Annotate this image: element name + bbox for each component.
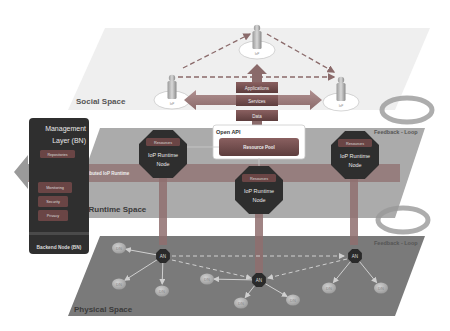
physical-space-label: Physical Space (74, 305, 133, 314)
dn-label: DN (204, 277, 210, 282)
access-node-an[interactable]: AN (156, 249, 170, 263)
feedback-loop-label-2: Feedback - Loop (374, 240, 418, 246)
iop-runtime-node[interactable]: ResourcesIoP RuntimeNode (235, 166, 283, 214)
an-dn-link (162, 263, 163, 284)
access-node-an[interactable]: AN (348, 249, 362, 263)
social-space-label: Social Space (76, 97, 126, 106)
iop-user-label: IoP (255, 52, 260, 56)
device-node-dn[interactable]: DN (155, 286, 169, 297)
resources-label: Resources (154, 141, 172, 145)
device-node-dn[interactable]: DN (286, 295, 300, 306)
node-title-line1: IoP Runtime (244, 188, 274, 194)
feedback-loop-label-1: Feedback - Loop (374, 129, 418, 135)
dn-label: DN (116, 246, 122, 251)
app-stack: Applications Services Data (236, 82, 278, 121)
person-body-icon (337, 83, 346, 101)
repositories-label: Repositories (48, 153, 68, 157)
access-node-an[interactable]: AN (252, 273, 266, 287)
iop-runtime-node[interactable]: ResourcesIoP RuntimeNode (139, 130, 187, 178)
person-head-icon (338, 77, 344, 83)
dn-label: DN (159, 289, 165, 294)
resource-pool-label: Resource Pool (243, 145, 275, 150)
management-title-1: Management (45, 125, 86, 133)
data-label: Data (252, 114, 262, 119)
person-head-icon (254, 25, 260, 31)
dn-label: DN (378, 286, 384, 291)
an-label: AN (352, 254, 358, 259)
dn-label: DN (290, 298, 296, 303)
resources-label: Resources (250, 177, 268, 181)
node-title-line2: Node (348, 162, 361, 168)
applications-label: Applications (245, 86, 270, 91)
device-node-dn[interactable]: DN (322, 283, 336, 294)
resources-label: Resources (346, 142, 364, 146)
iop-architecture-diagram: Social Space Distributed IoP Runtime IoP… (0, 0, 450, 331)
device-node-dn[interactable]: DN (112, 279, 126, 290)
management-layer-panel: Management Layer (BN) Repositories Monit… (29, 118, 89, 254)
node-title-line2: Node (156, 161, 169, 167)
person-body-icon (253, 31, 262, 49)
device-node-dn[interactable]: DN (234, 298, 248, 309)
device-node-dn[interactable]: DN (200, 274, 214, 285)
person-body-icon (168, 81, 177, 99)
open-api-label: Open API (216, 129, 241, 135)
person-head-icon (169, 75, 175, 81)
security-label: Security (46, 200, 60, 204)
dn-label: DN (326, 286, 332, 291)
device-node-dn[interactable]: DN (112, 243, 126, 254)
device-node-dn[interactable]: DN (374, 283, 388, 294)
iop-runtime-node[interactable]: ResourcesIoP RuntimeNode (331, 131, 379, 179)
backend-node-label: Backend Node (BN) (37, 245, 82, 250)
node-title-line2: Node (252, 197, 265, 203)
node-title-line1: IoP Runtime (340, 153, 370, 159)
dn-label: DN (116, 282, 122, 287)
monitoring-label: Monitoring (46, 186, 64, 190)
services-label: Services (248, 99, 266, 104)
iop-user-label: IoP (339, 104, 344, 108)
an-label: AN (160, 254, 166, 259)
privacy-label: Privacy (47, 214, 60, 218)
dn-label: DN (238, 301, 244, 306)
management-title-2: Layer (BN) (52, 137, 86, 145)
node-title-line1: IoP Runtime (148, 152, 178, 158)
iop-user-label: IoP (170, 102, 175, 106)
an-label: AN (256, 278, 262, 283)
